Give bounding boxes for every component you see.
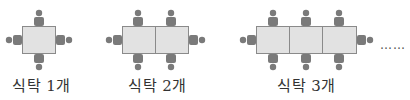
caption-3-tables: 식탁 3개 (277, 74, 336, 95)
table-divider (322, 27, 323, 53)
caption-2-tables: 식탁 2개 (128, 74, 187, 95)
person-icon-bottom (164, 54, 178, 71)
table-divider (155, 27, 156, 53)
continuation-ellipsis: …… (380, 38, 406, 52)
person-icon-bottom (131, 54, 145, 71)
table-group-1: 식탁 1개 (0, 0, 110, 100)
person-icon-bottom (32, 54, 46, 71)
person-icon-right (189, 33, 206, 47)
caption-1-table: 식탁 1개 (12, 74, 71, 95)
table-group-3: …… 식탁 3개 (230, 0, 410, 100)
table-group-2: 식탁 2개 (110, 0, 230, 100)
person-icon-top (131, 9, 145, 26)
table-divider (289, 27, 290, 53)
person-icon-left (5, 33, 22, 47)
person-icon-top (32, 9, 46, 26)
person-icon-top (299, 9, 313, 26)
person-icon-right (56, 33, 73, 47)
joined-tables (122, 26, 189, 54)
table (22, 26, 56, 54)
person-icon-bottom (332, 54, 346, 71)
joined-tables (256, 26, 357, 54)
person-icon-right (357, 33, 374, 47)
person-icon-top (266, 9, 280, 26)
person-icon-bottom (266, 54, 280, 71)
person-icon-left (105, 33, 122, 47)
person-icon-bottom (299, 54, 313, 71)
person-icon-left (239, 33, 256, 47)
person-icon-top (332, 9, 346, 26)
person-icon-top (164, 9, 178, 26)
